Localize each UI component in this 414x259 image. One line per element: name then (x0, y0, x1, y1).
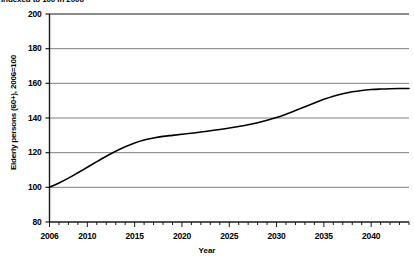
axis-major-ticks (46, 14, 372, 227)
chart-container: Indexed to 100 in 2006 Elderly persons (… (0, 0, 414, 259)
plot-area (0, 0, 414, 259)
gridlines (50, 14, 410, 187)
data-series-line (50, 89, 410, 188)
